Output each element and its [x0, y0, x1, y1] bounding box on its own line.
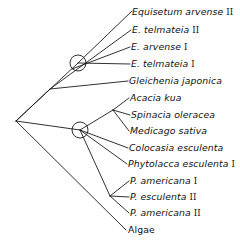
taxon-name: Phytolacca esculenta	[128, 158, 229, 169]
taxon-label-e-arvense-1: E. arvense I	[131, 42, 188, 52]
taxon-name: P. esculenta	[130, 191, 187, 202]
taxon-name: Medicago sativa	[130, 125, 207, 136]
taxon-label-colocasia-esculenta: Colocasia esculenta	[129, 143, 223, 153]
root-to-fern-junction	[16, 89, 50, 121]
taxon-label-equisetum-arvense-2: Equisetum arvense II	[132, 7, 233, 17]
taxon-label-e-telmateia-1: E. telmateia I	[131, 59, 195, 69]
taxon-numeral: I	[188, 59, 195, 69]
taxon-name: Acacia kua	[130, 92, 182, 103]
phylogenetic-tree-figure: Equisetum arvense IIE. telmateia IIE. ar…	[0, 0, 240, 244]
legume-junction-to-spinacia	[113, 110, 130, 115]
taxon-label-spinacia-oleracea: Spinacia oleracea	[131, 110, 215, 120]
taxon-name: P. americana	[130, 175, 191, 186]
root-to-algae	[16, 121, 126, 230]
taxon-name: Equisetum arvense	[132, 6, 223, 17]
taxon-label-p-esculenta-2: P. esculenta II	[130, 192, 197, 202]
phyto-junction-to-americana1	[110, 181, 129, 196]
phyto-junction-to-americana2	[110, 196, 129, 213]
taxon-name: P. americana	[130, 207, 191, 218]
taxon-label-gleichenia-japonica: Gleichenia japonica	[129, 76, 222, 86]
taxon-label-medicago-sativa: Medicago sativa	[130, 126, 207, 136]
fernline-to-telmateia2	[50, 30, 131, 89]
taxon-label-p-americana-1: P. americana I	[130, 176, 197, 186]
angiosperm-to-legume-junction	[80, 110, 113, 130]
taxon-name: Colocasia esculenta	[129, 142, 223, 153]
legume-junction-to-acacia	[113, 98, 129, 110]
taxon-numeral: II	[187, 192, 197, 202]
taxon-numeral: II	[189, 25, 199, 35]
taxon-label-phytolacca-esculenta-1: Phytolacca esculenta I	[128, 159, 235, 169]
taxon-name: E. arvense	[131, 41, 181, 52]
taxon-numeral: I	[181, 42, 188, 52]
angiosperm-to-phytolacca1	[80, 130, 127, 164]
taxon-label-algae: Algae	[128, 225, 155, 235]
taxon-label-acacia-kua: Acacia kua	[130, 93, 182, 103]
equisetum-node-to-arvense2	[78, 11, 132, 63]
taxon-name: E. telmateia	[132, 24, 189, 35]
phyto-junction-to-esculenta2	[110, 196, 129, 197]
fernline-to-arvense1	[72, 47, 130, 69]
root-to-angiosperm-node	[16, 121, 80, 130]
branch-lines	[16, 11, 132, 230]
taxon-numeral: II	[223, 7, 233, 17]
tree-branch-diagram	[0, 0, 240, 244]
taxon-name: E. telmateia	[131, 58, 188, 69]
legume-junction-to-medicago	[113, 110, 129, 131]
taxon-numeral: I	[191, 176, 198, 186]
taxon-name: Gleichenia japonica	[129, 75, 222, 86]
taxon-label-p-americana-2: P. americana II	[130, 208, 201, 218]
taxon-label-e-telmateia-2: E. telmateia II	[132, 25, 199, 35]
fern-junction-to-gleichenia	[50, 81, 128, 89]
taxon-numeral: II	[191, 208, 201, 218]
taxon-numeral: I	[229, 159, 236, 169]
taxon-name: Spinacia oleracea	[131, 109, 215, 120]
taxon-name: Algae	[128, 224, 155, 235]
